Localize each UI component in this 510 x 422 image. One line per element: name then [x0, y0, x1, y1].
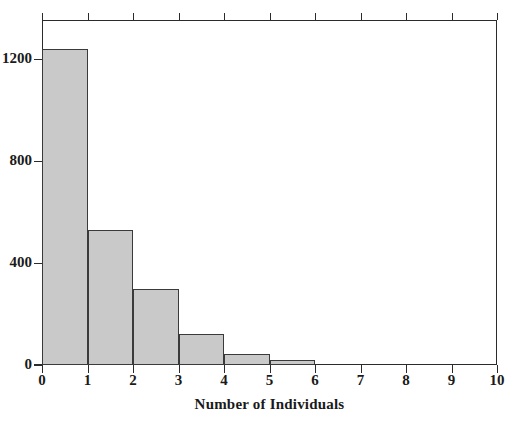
x-tick-mark-top: [133, 13, 134, 20]
histogram-bar: [42, 49, 88, 365]
histogram-bar: [88, 230, 134, 365]
x-tick-label: 1: [68, 372, 108, 389]
x-tick-mark-top: [224, 13, 225, 20]
x-tick-mark-top: [179, 13, 180, 20]
y-tick-mark: [34, 263, 42, 264]
x-tick-label: 4: [204, 372, 244, 389]
y-tick-label: 0: [0, 356, 32, 373]
x-tick-label: 5: [250, 372, 290, 389]
y-tick-mark: [34, 364, 42, 365]
histogram-figure: 012345678910 04008001200 Number of Indiv…: [0, 0, 510, 422]
x-tick-mark-top: [42, 13, 43, 20]
x-tick-mark-top: [315, 13, 316, 20]
bars-layer: [42, 20, 497, 365]
x-tick-mark-top: [497, 13, 498, 20]
x-tick-label: 3: [159, 372, 199, 389]
x-tick-mark-top: [88, 13, 89, 20]
histogram-bar: [270, 360, 316, 365]
x-tick-label: 7: [341, 372, 381, 389]
x-tick-mark-top: [406, 13, 407, 20]
x-tick-label: 2: [113, 372, 153, 389]
y-tick-mark: [34, 161, 42, 162]
x-tick-label: 10: [477, 372, 510, 389]
x-tick-mark-top: [270, 13, 271, 20]
y-tick-label: 400: [0, 254, 32, 271]
x-tick-label: 6: [295, 372, 335, 389]
y-axis-tick-labels: 04008001200: [0, 0, 32, 422]
x-tick-mark-top: [452, 13, 453, 20]
y-tick-label: 800: [0, 152, 32, 169]
y-tick-mark: [34, 59, 42, 60]
histogram-bar: [179, 334, 225, 365]
y-tick-label: 1200: [0, 50, 32, 67]
histogram-bar: [224, 354, 270, 365]
x-tick-label: 9: [432, 372, 472, 389]
x-tick-label: 8: [386, 372, 426, 389]
x-tick-mark-top: [361, 13, 362, 20]
x-axis-title: Number of Individuals: [42, 396, 497, 413]
histogram-bar: [133, 289, 179, 365]
